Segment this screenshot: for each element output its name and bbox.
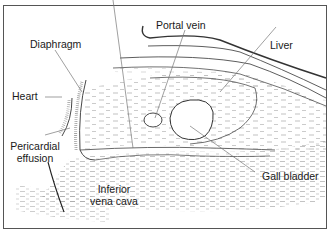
label-pericardial-line2: effusion (10, 152, 60, 164)
label-heart: Heart (12, 90, 38, 102)
label-diaphragm: Diaphragm (30, 38, 81, 50)
label-gall-bladder: Gall bladder (262, 170, 319, 182)
leader-pericardial (45, 128, 70, 135)
label-liver: Liver (270, 39, 293, 51)
label-ivc-line2: vena cava (86, 195, 142, 207)
label-portal-vein: Portal vein (156, 19, 206, 31)
label-inferior-vena-cava: Inferior vena cava (86, 183, 142, 207)
label-pericardial-effusion: Pericardial effusion (10, 140, 60, 164)
label-ivc-line1: Inferior (86, 183, 142, 195)
label-pericardial-line1: Pericardial (10, 140, 60, 152)
anatomy-drawing (0, 0, 333, 233)
portal-vein-shape (144, 113, 162, 127)
leader-diaphragm (55, 50, 82, 92)
gall-bladder-shape (170, 100, 213, 140)
